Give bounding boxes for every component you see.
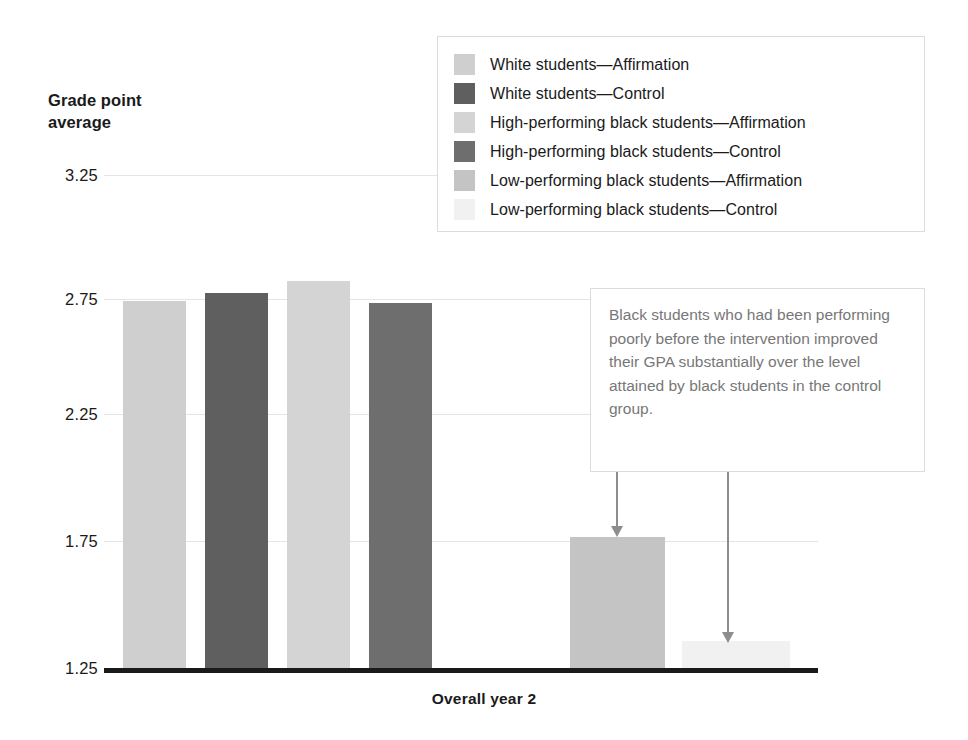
legend-item-high-performing-black-control[interactable]: High-performing black students—Control <box>454 137 924 166</box>
annotation-arrow-2-head-icon <box>722 632 734 643</box>
y-tick-label-2-75: 2.75 <box>36 290 98 309</box>
annotation-arrow-1-head-icon <box>611 526 623 537</box>
bar-high-performing-black-affirmation[interactable] <box>287 281 350 668</box>
legend-swatch-icon <box>454 199 475 220</box>
x-axis-label: Overall year 2 <box>0 690 968 708</box>
legend-item-label: Low-performing black students—Affirmatio… <box>490 172 802 190</box>
legend-item-low-performing-black-affirmation[interactable]: Low-performing black students—Affirmatio… <box>454 166 924 195</box>
legend-item-label: White students—Affirmation <box>490 56 689 74</box>
y-tick-label-2-25: 2.25 <box>36 405 98 424</box>
legend-item-white-affirmation[interactable]: White students—Affirmation <box>454 50 924 79</box>
y-axis-title: Grade point average <box>48 90 228 134</box>
annotation-callout: Black students who had been performing p… <box>590 288 925 472</box>
legend-swatch-icon <box>454 141 475 162</box>
bar-high-performing-black-control[interactable] <box>369 303 432 668</box>
annotation-arrow-2-line <box>727 472 729 634</box>
legend-swatch-icon <box>454 54 475 75</box>
y-tick-label-1-25: 1.25 <box>36 659 98 678</box>
y-tick-label-3-25: 3.25 <box>36 166 98 185</box>
chart-canvas: Grade point average 3.25 2.75 2.25 1.75 … <box>0 0 968 740</box>
legend-item-low-performing-black-control[interactable]: Low-performing black students—Control <box>454 195 924 224</box>
bar-low-performing-black-control[interactable] <box>682 641 790 668</box>
annotation-arrow-1-line <box>616 472 618 528</box>
legend-item-high-performing-black-affirmation[interactable]: High-performing black students—Affirmati… <box>454 108 924 137</box>
legend-swatch-icon <box>454 83 475 104</box>
legend-swatch-icon <box>454 170 475 191</box>
legend-item-label: High-performing black students—Affirmati… <box>490 114 806 132</box>
chart-legend: White students—Affirmation White student… <box>437 36 925 232</box>
legend-item-white-control[interactable]: White students—Control <box>454 79 924 108</box>
x-axis-baseline <box>104 668 818 673</box>
bar-low-performing-black-affirmation[interactable] <box>570 537 665 668</box>
bar-white-affirmation[interactable] <box>123 301 186 668</box>
legend-item-label: High-performing black students—Control <box>490 143 781 161</box>
y-axis-title-line-1: Grade point <box>48 90 228 112</box>
bar-white-control[interactable] <box>205 293 268 668</box>
legend-item-label: White students—Control <box>490 85 665 103</box>
y-axis-title-line-2: average <box>48 112 228 134</box>
legend-swatch-icon <box>454 112 475 133</box>
legend-item-label: Low-performing black students—Control <box>490 201 777 219</box>
y-tick-label-1-75: 1.75 <box>36 532 98 551</box>
